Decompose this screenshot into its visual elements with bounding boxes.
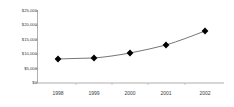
x-axis-labels: 1998 1999 2000 2001 2002 [0,0,234,107]
x-axis-tick-label: 1999 [88,91,99,96]
line-chart: $25,000 $20,000 $15,000 $10,000 $5,000 $… [0,0,234,107]
x-axis-tick-label: 2001 [160,91,171,96]
x-axis-tick-label: 2002 [199,91,210,96]
x-axis-tick-label: 2000 [124,91,135,96]
x-axis-tick-label: 1998 [52,91,63,96]
